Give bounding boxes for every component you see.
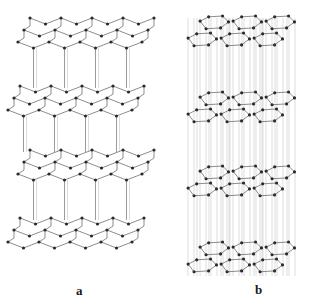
atom-dot	[199, 20, 202, 23]
atom-dot	[22, 28, 25, 31]
bond	[76, 230, 92, 236]
atom-dot	[248, 263, 251, 266]
bond	[55, 110, 71, 116]
atom-dot	[265, 96, 268, 99]
bond	[239, 28, 254, 29]
atom-dot	[121, 102, 124, 105]
atom-dot	[252, 176, 255, 179]
atom-dot	[38, 166, 41, 169]
bond	[71, 162, 87, 168]
atom-dot	[115, 28, 118, 31]
atom-dot	[248, 113, 251, 116]
atom-dot	[275, 181, 278, 184]
atom-dot	[192, 44, 195, 47]
atom-dot	[293, 96, 296, 99]
atom-dot	[207, 165, 210, 168]
bond	[77, 150, 93, 156]
bond	[123, 18, 139, 24]
atom-dot	[90, 234, 93, 237]
atom-dot	[115, 114, 118, 117]
atom-dot	[242, 181, 245, 184]
atom-dot	[207, 15, 210, 18]
atom-dot	[237, 27, 240, 30]
atom-dot	[228, 108, 231, 111]
atom-dot	[195, 258, 198, 261]
atom-dot	[240, 43, 243, 46]
atom-dot	[209, 31, 212, 34]
atom-dot	[273, 241, 276, 244]
atom-dot	[137, 22, 140, 25]
atom-dot	[252, 102, 255, 105]
atom-dot	[273, 269, 276, 272]
atom-dot	[253, 37, 256, 40]
atom-dot	[237, 177, 240, 180]
atom-dot	[16, 172, 19, 175]
atom-dot	[12, 228, 15, 231]
atom-dot	[232, 96, 235, 99]
atom-dot	[195, 32, 198, 35]
atom-dot	[287, 14, 290, 17]
atom-dot	[204, 27, 207, 30]
atom-dot	[59, 234, 62, 237]
atom-dot	[74, 228, 77, 231]
atom-dot	[68, 108, 71, 111]
bond	[86, 30, 102, 36]
bond	[24, 110, 40, 116]
atom-dot	[37, 108, 40, 111]
panel-a-puckered-lattice	[6, 16, 155, 249]
atom-dot	[228, 32, 231, 35]
atom-dot	[137, 154, 140, 157]
atom-dot	[232, 246, 235, 249]
bond	[40, 30, 56, 36]
atom-dot	[94, 46, 97, 49]
atom-dot	[254, 90, 257, 93]
atom-dot	[253, 187, 256, 190]
atom-dot	[28, 234, 31, 237]
atom-dot	[240, 91, 243, 94]
atom-dot	[225, 120, 228, 123]
atom-dot	[34, 90, 37, 93]
atom-dot	[80, 84, 83, 87]
atom-dot	[215, 187, 218, 190]
bond	[127, 42, 143, 48]
bond	[46, 18, 62, 24]
atom-dot	[270, 253, 273, 256]
bond	[70, 242, 86, 248]
atom-dot	[106, 22, 109, 25]
atom-dot	[111, 216, 114, 219]
atom-dot	[22, 246, 25, 249]
bond	[8, 242, 24, 248]
atom-dot	[131, 166, 134, 169]
bond	[77, 18, 93, 24]
bond	[70, 110, 86, 116]
bond	[263, 33, 277, 34]
atom-dot	[275, 107, 278, 110]
atom-dot	[187, 263, 190, 266]
atom-dot	[49, 216, 52, 219]
atom-dot	[260, 246, 263, 249]
atom-dot	[109, 40, 112, 43]
atom-dot	[232, 20, 235, 23]
panel-b-vertical-guide-lines	[188, 18, 295, 276]
atom-dot	[293, 246, 296, 249]
atom-dot	[240, 269, 243, 272]
atom-dot	[63, 178, 66, 181]
atom-dot	[74, 96, 77, 99]
atom-dot	[207, 119, 210, 122]
bond	[24, 30, 40, 36]
bond	[230, 33, 244, 34]
atom-dot	[281, 37, 284, 40]
atom-dot	[90, 148, 93, 151]
atom-dot	[43, 96, 46, 99]
atom-dot	[142, 216, 145, 219]
atom-dot	[273, 165, 276, 168]
bond	[263, 259, 277, 260]
atom-dot	[219, 26, 222, 29]
atom-dot	[207, 269, 210, 272]
atom-dot	[18, 216, 21, 219]
atom-dot	[207, 241, 210, 244]
bond	[14, 98, 30, 104]
bond	[40, 162, 56, 168]
bond	[67, 86, 83, 92]
atom-dot	[248, 187, 251, 190]
